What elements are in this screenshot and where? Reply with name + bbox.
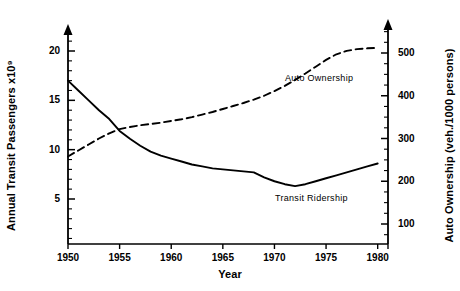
series-line-auto-ownership xyxy=(68,48,378,157)
y-tick-label-right: 300 xyxy=(398,133,438,144)
chart-plot-area xyxy=(0,0,460,291)
series-annotation: Auto Ownership xyxy=(285,73,353,83)
x-tick-label: 1965 xyxy=(198,252,248,263)
y-axis-left-title: Annual Transit Passengers x10⁹ xyxy=(0,0,22,291)
y-tick-label-right: 200 xyxy=(398,175,438,186)
x-tick-label: 1950 xyxy=(43,252,93,263)
y-tick-label-right: 100 xyxy=(398,218,438,229)
x-tick-label: 1980 xyxy=(353,252,403,263)
series-annotation: Transit Ridership xyxy=(275,193,348,203)
x-tick-label: 1955 xyxy=(95,252,145,263)
y-tick-label-left: 5 xyxy=(22,193,60,204)
y-tick-label-left: 15 xyxy=(22,94,60,105)
x-tick-label: 1960 xyxy=(146,252,196,263)
x-axis-title: Year xyxy=(0,268,460,280)
axis-ticks xyxy=(68,32,388,249)
y-axis-right-title: Auto Ownership (veh./1000 persons) xyxy=(438,0,460,291)
x-tick-label: 1970 xyxy=(249,252,299,263)
y-tick-label-left: 10 xyxy=(22,144,60,155)
chart-container: Annual Transit Passengers x10⁹ Auto Owne… xyxy=(0,0,460,291)
series-line-transit-ridership xyxy=(68,81,378,187)
y-tick-label-left: 20 xyxy=(22,45,60,56)
y-tick-label-right: 500 xyxy=(398,47,438,58)
x-tick-label: 1975 xyxy=(301,252,351,263)
y-tick-label-right: 400 xyxy=(398,90,438,101)
